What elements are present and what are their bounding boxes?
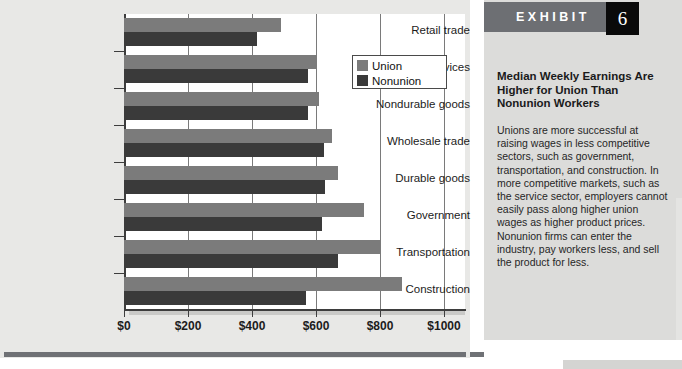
y-axis-tick [114,199,124,200]
x-tick-label: $1000 [427,319,460,333]
bar-nonunion [124,180,325,194]
x-axis-tick [124,311,125,317]
x-tick-label: $400 [239,319,266,333]
bar-union [124,203,364,217]
page-bottom-edge [563,360,682,369]
y-axis-tick [114,51,124,52]
bar-union [124,166,338,180]
exhibit-header-label: EXHIBIT [516,10,590,24]
exhibit-page: Retail tradeServicesNondurable goodsWhol… [0,0,682,369]
bar-nonunion [124,291,306,305]
x-axis-tick [252,311,253,317]
legend-item-nonunion: Nonunion [357,74,442,87]
page-right-edge [676,198,682,340]
chart-panel: Retail tradeServicesNondurable goodsWhol… [0,0,470,358]
bar-union [124,18,281,32]
x-axis-tick [444,311,445,317]
y-axis-tick [114,88,124,89]
category-label: Government [356,209,470,221]
bar-nonunion [124,254,338,268]
x-axis-tick [316,311,317,317]
exhibit-number-box: 6 [606,2,639,35]
x-axis-line [124,309,466,311]
x-axis-tick [380,311,381,317]
x-axis-tick [188,311,189,317]
bottom-rule-tail [470,352,484,357]
exhibit-panel: Median Weekly Earnings Are Higher for Un… [484,0,682,340]
exhibit-title: Median Weekly Earnings Are Higher for Un… [497,70,673,111]
y-axis-tick [114,273,124,274]
bar-nonunion [124,69,308,83]
category-label: Nondurable goods [356,98,470,110]
x-tick-label: $0 [117,319,130,333]
bar-union [124,240,380,254]
legend-label-nonunion: Nonunion [372,75,421,87]
exhibit-body-text: Unions are more successful at raising wa… [497,124,669,269]
bar-nonunion [124,143,324,157]
y-axis-tick [114,162,124,163]
chart-legend: Union Nonunion [352,55,447,89]
legend-swatch-nonunion-icon [357,75,368,86]
x-tick-label: $600 [303,319,330,333]
bar-union [124,92,319,106]
bar-nonunion [124,217,322,231]
legend-swatch-union-icon [357,60,368,71]
legend-label-union: Union [372,60,402,72]
exhibit-number: 6 [606,2,639,35]
category-label: Durable goods [356,172,470,184]
category-label: Transportation [356,246,470,258]
bar-union [124,129,332,143]
x-tick-label: $800 [367,319,394,333]
category-label: Wholesale trade [356,135,470,147]
chart-bottom-rule [4,352,466,357]
category-label: Construction [356,283,470,295]
category-label: Retail trade [356,24,470,36]
bar-nonunion [124,32,257,46]
bar-nonunion [124,106,308,120]
y-axis-tick [114,236,124,237]
legend-item-union: Union [357,59,442,72]
x-tick-label: $200 [175,319,202,333]
bar-union [124,55,316,69]
y-axis-tick [114,125,124,126]
